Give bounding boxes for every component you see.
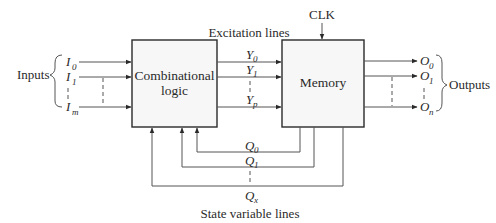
- excitation-lines-label: Excitation lines: [208, 25, 289, 40]
- svg-text:0: 0: [253, 54, 258, 64]
- inputs-label: Inputs: [17, 67, 50, 82]
- svg-text:1: 1: [253, 69, 258, 79]
- svg-text:I: I: [65, 69, 71, 84]
- svg-text:0: 0: [72, 62, 77, 72]
- svg-text:p: p: [252, 99, 258, 109]
- outputs-brace: [436, 55, 447, 111]
- combinational-label-1: Combinational: [134, 68, 214, 83]
- state-variable-lines-label: State variable lines: [201, 206, 300, 221]
- svg-text:1: 1: [429, 76, 434, 86]
- svg-text:0: 0: [254, 145, 259, 155]
- svg-text:1: 1: [72, 77, 77, 87]
- state-Q1: Q 1: [245, 153, 259, 170]
- excitation-Y1: Y 1: [246, 62, 258, 79]
- combinational-label-2: logic: [161, 83, 188, 98]
- output-On: O n: [420, 99, 434, 117]
- svg-text:x: x: [253, 195, 258, 205]
- svg-text:I: I: [65, 54, 71, 69]
- excitation-Yp: Y p: [246, 92, 258, 109]
- input-Im: I m: [65, 99, 79, 117]
- outputs-label: Outputs: [449, 77, 490, 92]
- clock-label: CLK: [309, 7, 336, 22]
- sequential-circuit-diagram: Inputs I 0 I 1 I m Combinational logic E…: [0, 0, 496, 223]
- svg-text:1: 1: [254, 160, 259, 170]
- svg-text:m: m: [72, 107, 79, 117]
- svg-text:n: n: [429, 107, 434, 117]
- svg-text:0: 0: [429, 61, 434, 71]
- memory-label: Memory: [300, 75, 347, 90]
- state-Qx: Q x: [245, 188, 258, 205]
- svg-text:I: I: [65, 99, 71, 114]
- inputs-brace: [50, 55, 62, 107]
